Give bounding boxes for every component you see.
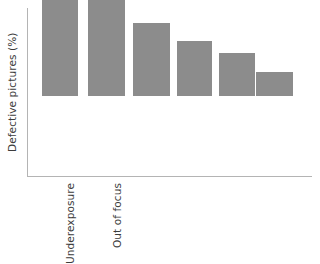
bar xyxy=(42,0,78,96)
bar xyxy=(88,0,125,96)
plot-area xyxy=(0,0,320,177)
x-axis-tick-label: Underexposure xyxy=(65,183,76,264)
bar xyxy=(133,23,170,96)
bar xyxy=(219,53,255,96)
bar xyxy=(177,41,212,96)
bar xyxy=(256,72,293,96)
x-axis-tick-label: Out of focus xyxy=(112,183,123,248)
